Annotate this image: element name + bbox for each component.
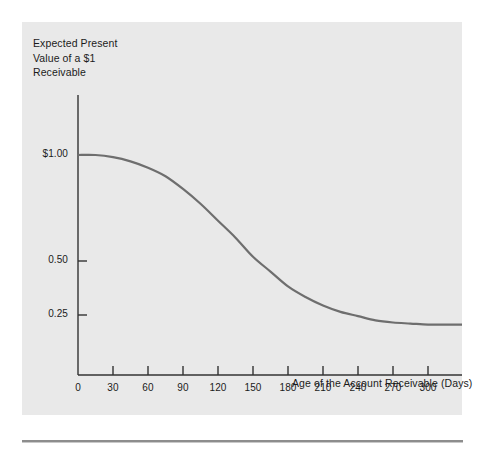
- y-tick-label-0-50: 0.50: [22, 254, 68, 265]
- x-tick-label-90: 90: [168, 382, 198, 393]
- figure-root: Expected Present Value of a $1 Receivabl…: [0, 0, 485, 463]
- y-tick-label-1-00: $1.00: [22, 148, 68, 159]
- y-axis-title: Expected Present Value of a $1 Receivabl…: [33, 36, 183, 80]
- x-tick-label-150: 150: [238, 382, 268, 393]
- x-axis-title: Age of the Account Receivable (Days): [292, 377, 472, 389]
- x-tick-label-60: 60: [133, 382, 163, 393]
- chart-panel: Expected Present Value of a $1 Receivabl…: [22, 22, 462, 415]
- data-curve-line: [78, 155, 462, 325]
- x-tick-label-30: 30: [98, 382, 128, 393]
- chart-plot-area: [22, 22, 462, 415]
- y-tick-label-0-25: 0.25: [22, 308, 68, 319]
- x-tick-label-0: 0: [63, 382, 93, 393]
- x-tick-label-120: 120: [203, 382, 233, 393]
- bottom-divider-rule-shadow: [22, 442, 463, 443]
